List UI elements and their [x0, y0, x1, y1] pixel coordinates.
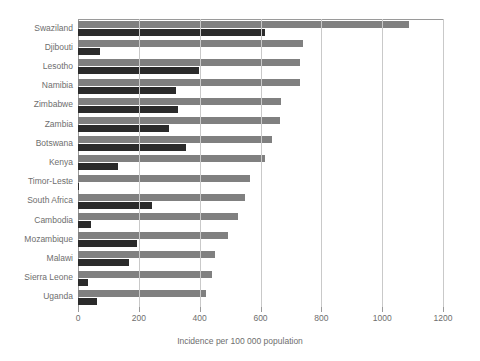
bar-hiv-positive — [78, 87, 176, 94]
x-axis-label: Incidence per 100 000 population — [0, 336, 480, 346]
bar-hiv-positive — [78, 144, 186, 151]
bar-hiv-positive — [78, 202, 152, 209]
tick-200 — [139, 307, 140, 312]
tick-label-1200: 1200 — [434, 313, 453, 323]
tick-800 — [321, 307, 322, 312]
bar-hiv-positive — [78, 240, 137, 247]
bar-total — [78, 59, 300, 66]
bar-total — [78, 194, 245, 201]
bar-total — [78, 232, 228, 239]
bar-total — [78, 155, 265, 162]
tick-0 — [78, 307, 79, 312]
category-label: Timor-Leste — [0, 176, 73, 186]
bar-hiv-positive — [78, 48, 100, 55]
bar-hiv-positive — [78, 298, 97, 305]
tick-label-600: 600 — [253, 313, 267, 323]
bar-total — [78, 117, 280, 124]
category-label: Djibouti — [0, 42, 73, 52]
category-label: Swaziland — [0, 23, 73, 33]
category-label: South Africa — [0, 195, 73, 205]
category-label: Malawi — [0, 253, 73, 263]
bar-total — [78, 271, 212, 278]
category-label: Zimbabwe — [0, 99, 73, 109]
tick-400 — [200, 307, 201, 312]
bar-total — [78, 251, 215, 258]
tick-label-1000: 1000 — [373, 313, 392, 323]
category-label: Uganda — [0, 291, 73, 301]
bar-total — [78, 79, 300, 86]
gridline-600 — [261, 19, 262, 307]
gridline-400 — [200, 19, 201, 307]
tick-label-0: 0 — [76, 313, 81, 323]
category-label: Cambodia — [0, 215, 73, 225]
category-label: Kenya — [0, 157, 73, 167]
gridline-200 — [139, 19, 140, 307]
category-label: Namibia — [0, 80, 73, 90]
bar-hiv-positive — [78, 221, 91, 228]
bar-total — [78, 21, 409, 28]
bar-total — [78, 136, 272, 143]
gridline-1000 — [382, 19, 383, 307]
bar-hiv-positive — [78, 125, 169, 132]
bar-total — [78, 290, 206, 297]
category-label: Lesotho — [0, 61, 73, 71]
bar-hiv-positive — [78, 106, 178, 113]
bar-total — [78, 98, 281, 105]
gridline-1200 — [443, 19, 444, 307]
tick-label-800: 800 — [314, 313, 328, 323]
bar-total — [78, 213, 238, 220]
gridline-800 — [321, 19, 322, 307]
tick-label-200: 200 — [132, 313, 146, 323]
tick-1000 — [382, 307, 383, 312]
bar-hiv-positive — [78, 163, 118, 170]
category-label: Mozambique — [0, 234, 73, 244]
category-label: Zambia — [0, 119, 73, 129]
tick-600 — [261, 307, 262, 312]
bar-hiv-positive — [78, 259, 129, 266]
bar-hiv-positive — [78, 29, 265, 36]
category-label: Botswana — [0, 138, 73, 148]
tick-label-400: 400 — [193, 313, 207, 323]
tick-1200 — [443, 307, 444, 312]
bar-chart: 020040060080010001200 SwazilandDjiboutiL… — [0, 0, 480, 361]
bar-total — [78, 175, 250, 182]
bar-hiv-positive — [78, 279, 88, 286]
bar-hiv-positive — [78, 183, 79, 190]
bar-total — [78, 40, 303, 47]
category-label: Sierra Leone — [0, 272, 73, 282]
